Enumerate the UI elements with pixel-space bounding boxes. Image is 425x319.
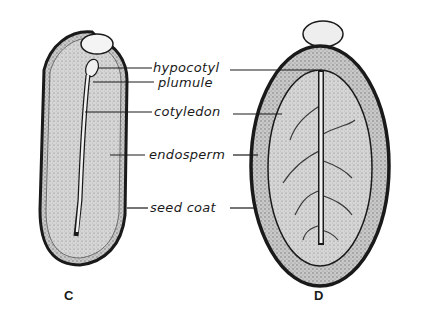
caption-c: C [64,288,73,303]
label-hypocotyl: hypocotyl [153,61,219,74]
seed-c [40,32,127,265]
label-cotyledon: cotyledon [154,105,221,118]
label-endosperm: endosperm [149,148,225,161]
label-plumule: plumule [158,76,213,89]
label-seed-coat: seed coat [150,201,216,214]
seed-d [251,21,389,286]
caption-d: D [314,288,323,303]
